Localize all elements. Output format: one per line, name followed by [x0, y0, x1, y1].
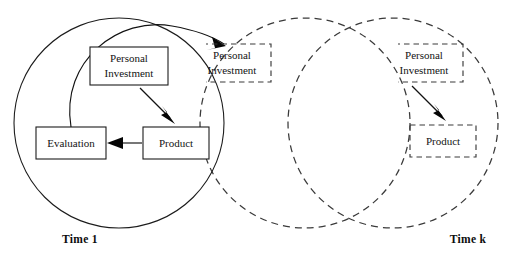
- diagram-canvas: Personal Investment Personal Investment …: [0, 0, 511, 259]
- product-1-label: Product: [159, 137, 193, 149]
- personal-investment-1-line2: Investment: [105, 67, 154, 79]
- arrow-investment-to-product-1-head: [161, 106, 175, 124]
- product-k-label: Product: [426, 135, 460, 147]
- personal-investment-2-line1: Personal: [213, 49, 251, 61]
- recursive-cycle-diagram: Personal Investment Personal Investment …: [0, 0, 511, 259]
- personal-investment-k-group: Personal Investment: [385, 44, 463, 82]
- personal-investment-k-line1: Personal: [405, 49, 443, 61]
- evaluation-1-label: Evaluation: [47, 137, 95, 149]
- arrow-product-to-evaluation-1-head: [107, 137, 123, 149]
- time-label-k: Time k: [450, 233, 487, 245]
- arrow-investment-to-product-k-head: [433, 104, 446, 121]
- cycle-circle-k: [288, 18, 498, 228]
- personal-investment-k-line2: Investment: [400, 64, 449, 76]
- time-label-1: Time 1: [62, 233, 98, 245]
- personal-investment-2-line2: Investment: [208, 64, 257, 76]
- personal-investment-1-line1: Personal: [110, 52, 148, 64]
